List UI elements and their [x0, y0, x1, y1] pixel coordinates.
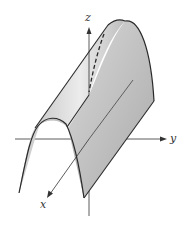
z-axis-label: z: [84, 11, 91, 24]
y-axis-label: y: [169, 132, 177, 145]
x-axis-label: x: [40, 198, 47, 211]
z-axis-arrow-icon: [87, 27, 92, 34]
parabolic-cylinder-diagram: z y x: [0, 0, 187, 239]
surface-left-face: [19, 124, 40, 193]
y-axis-arrow-icon: [160, 137, 167, 142]
